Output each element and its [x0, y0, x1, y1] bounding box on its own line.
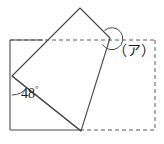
- geometry-figure: 48° （ア）: [0, 0, 164, 144]
- degree-symbol: °: [35, 84, 39, 94]
- angle-label-48-degrees: 48°: [21, 85, 39, 101]
- unknown-angle-label: （ア）: [113, 44, 155, 58]
- folded-flap-outline: [12, 8, 110, 131]
- folded-flap: [12, 8, 110, 131]
- angle-value-48: 48: [21, 86, 35, 101]
- figure-canvas: [0, 0, 164, 144]
